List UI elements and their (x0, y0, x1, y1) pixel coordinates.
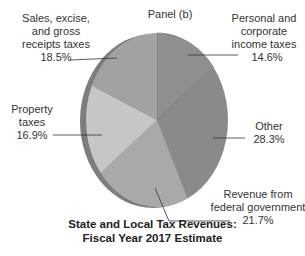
panel-label: Panel (b) (135, 8, 205, 21)
label-sales-taxes: Sales, excise, and gross receipts taxes … (14, 12, 98, 64)
label-other: Other 28.3% (244, 120, 294, 146)
label-income-taxes: Personal and corporate income taxes 14.6… (222, 12, 305, 64)
label-property: Property taxes 16.9% (4, 103, 60, 142)
chart-title: State and Local Tax Revenues: Fiscal Yea… (0, 217, 305, 245)
pie-slices (86, 33, 228, 207)
